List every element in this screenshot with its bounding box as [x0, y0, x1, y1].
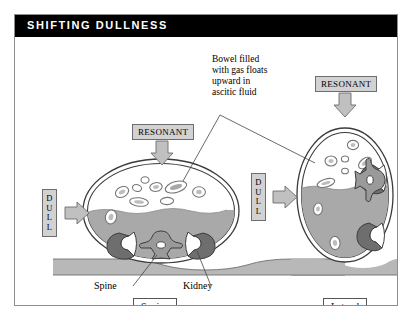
figure-title-bar: SHIFTING DULLNESS	[15, 15, 397, 37]
diagram-canvas: Bowel filled with gas floats upward in a…	[15, 37, 397, 305]
resonant-label-lateral: RESONANT	[315, 76, 377, 92]
dull-letter-4: L	[252, 207, 265, 217]
annotation-line-3: upward in	[212, 76, 267, 87]
annotation-line-2: with gas floats	[212, 65, 267, 76]
caption-supine: Supine	[133, 298, 177, 305]
dull-label-supine: D U L L	[42, 189, 57, 237]
resonant-arrow-lateral	[334, 93, 356, 117]
page-title: SHIFTING DULLNESS	[27, 19, 168, 31]
dull-arrow-lateral	[273, 186, 297, 208]
annotation-line-4: ascitic fluid	[212, 87, 267, 98]
dull-label-lateral: D U L L	[251, 173, 266, 221]
lateral-abdomen-cross-section	[297, 128, 393, 263]
annotation-text: Bowel filled with gas floats upward in a…	[212, 54, 267, 98]
kidney-label: Kidney	[183, 280, 212, 291]
dull-letter-4: L	[43, 223, 56, 233]
ascitic-fluid-lateral	[299, 185, 391, 264]
resonant-label-supine: RESONANT	[132, 124, 194, 140]
kidney-lower-lateral	[357, 223, 385, 251]
annotation-line-1: Bowel filled	[212, 54, 267, 65]
spine-label: Spine	[94, 280, 117, 291]
figure-frame: SHIFTING DULLNESS	[14, 14, 398, 306]
caption-lateral: Lateral	[323, 298, 367, 305]
kidney-left-supine	[107, 232, 137, 259]
kidney-right-supine	[186, 232, 216, 259]
